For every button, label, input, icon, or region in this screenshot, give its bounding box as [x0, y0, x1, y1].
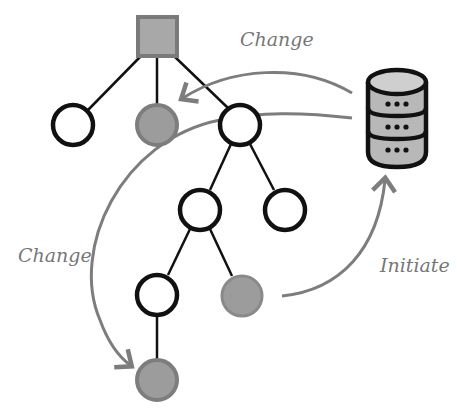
label-change-top: Change — [240, 28, 314, 50]
database-icon — [368, 70, 426, 167]
node-l2-right — [265, 190, 305, 230]
edge-l1r-l2r — [250, 144, 274, 190]
edge-l2l-l3l — [168, 229, 190, 275]
label-initiate: Initiate — [379, 254, 450, 276]
root-node — [138, 17, 177, 56]
arrow-change-top — [183, 72, 352, 98]
label-change-left: Change — [18, 244, 92, 266]
node-l1-left — [53, 105, 93, 145]
edge-root-right — [175, 57, 228, 108]
edge-l2l-l3r — [210, 229, 232, 276]
tree-diagram: Change Change Initiate — [0, 0, 457, 419]
node-l2-left — [180, 190, 220, 230]
node-l3-left — [137, 275, 177, 315]
node-l4-changed — [137, 360, 177, 400]
edge-l1r-l2l — [210, 144, 231, 190]
node-l1-mid-changed — [137, 105, 177, 145]
arrow-change-left — [91, 114, 352, 365]
node-l1-right — [220, 105, 260, 145]
node-l3-right-changed — [222, 276, 262, 316]
edge-root-left — [88, 57, 140, 110]
